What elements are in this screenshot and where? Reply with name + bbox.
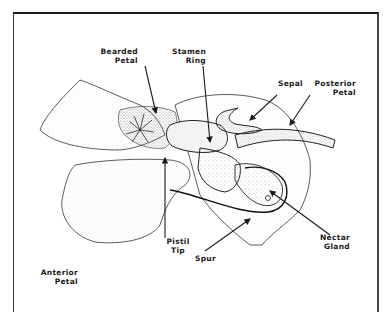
label-posterior-petal: Posterior Petal	[314, 79, 356, 97]
label-spur: Spur	[195, 254, 216, 263]
label-stamen-ring: Stamen Ring	[172, 47, 206, 65]
label-bearded-petal: Bearded Petal	[98, 47, 138, 65]
label-pistil-tip: Pistil Tip	[163, 237, 193, 255]
anterior-petal-shape	[62, 159, 190, 243]
label-sepal: Sepal	[278, 79, 303, 88]
label-anterior-petal: Anterior Petal	[40, 268, 78, 286]
label-nectar-gland: Nectar Gland	[318, 233, 350, 251]
